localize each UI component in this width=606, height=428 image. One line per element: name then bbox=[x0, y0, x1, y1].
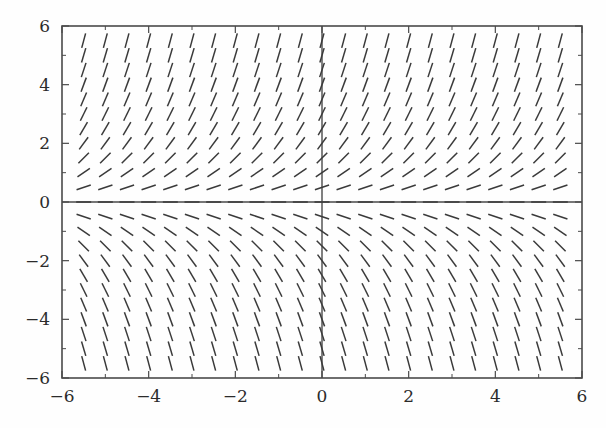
slope-segment bbox=[532, 185, 546, 190]
slope-segment bbox=[406, 312, 411, 326]
slope-segment bbox=[490, 153, 501, 164]
slope-segment bbox=[187, 153, 198, 164]
slope-segment bbox=[447, 153, 458, 164]
slope-segment bbox=[492, 122, 500, 135]
slope-segment bbox=[165, 153, 176, 164]
slope-segment bbox=[168, 341, 172, 355]
slope-segment bbox=[103, 78, 108, 92]
slope-segment bbox=[298, 327, 303, 341]
slope-segment bbox=[274, 137, 283, 149]
slope-segment bbox=[469, 255, 478, 267]
slope-segment bbox=[424, 227, 436, 235]
slope-segment bbox=[536, 63, 541, 77]
slope-segment bbox=[211, 298, 217, 312]
slope-segment bbox=[189, 298, 195, 312]
slope-segment bbox=[277, 48, 281, 62]
slope-segment bbox=[472, 341, 476, 355]
slope-segment bbox=[363, 327, 368, 341]
slope-segment bbox=[167, 269, 175, 282]
slope-segment bbox=[77, 185, 91, 190]
slope-segment bbox=[555, 153, 566, 164]
slope-segment bbox=[558, 327, 563, 341]
slope-segment bbox=[536, 92, 542, 106]
slope-segment bbox=[253, 122, 261, 135]
slope-segment bbox=[144, 137, 153, 149]
slope-segment bbox=[514, 298, 520, 312]
slope-segment bbox=[190, 327, 195, 341]
slope-segment bbox=[80, 283, 87, 296]
slope-segment bbox=[232, 107, 239, 120]
slope-segment bbox=[537, 356, 541, 370]
slope-segment bbox=[427, 283, 434, 296]
slope-segment bbox=[362, 298, 368, 312]
slope-segment bbox=[470, 269, 478, 282]
slope-segment bbox=[82, 341, 86, 355]
slope-segment bbox=[406, 78, 411, 92]
slope-segment bbox=[102, 269, 110, 282]
slope-segment bbox=[167, 107, 174, 120]
slope-segment bbox=[77, 214, 91, 219]
slope-segment bbox=[450, 33, 454, 47]
slope-segment bbox=[385, 63, 390, 77]
slope-segment bbox=[298, 63, 303, 77]
y-tick-label: 0 bbox=[39, 192, 50, 212]
slope-segment bbox=[363, 48, 367, 62]
slope-segment bbox=[513, 255, 522, 267]
slope-segment bbox=[124, 283, 131, 296]
slope-segment bbox=[146, 78, 151, 92]
slope-segment bbox=[79, 137, 88, 149]
slope-segment bbox=[426, 255, 435, 267]
slope-segment bbox=[513, 269, 521, 282]
slope-segment bbox=[298, 341, 302, 355]
slope-segment bbox=[467, 168, 479, 176]
slope-segment bbox=[341, 92, 347, 106]
slope-segment bbox=[208, 241, 219, 252]
slope-segment bbox=[423, 214, 437, 219]
slope-segment bbox=[122, 241, 133, 252]
slope-segment bbox=[450, 356, 454, 370]
x-tick-label: 2 bbox=[403, 386, 414, 406]
slope-segment bbox=[358, 185, 372, 190]
slope-segment bbox=[168, 48, 172, 62]
slope-segment bbox=[125, 327, 130, 341]
slope-segment bbox=[103, 63, 108, 77]
slope-segment bbox=[445, 185, 459, 190]
slope-segment bbox=[167, 122, 175, 135]
slope-segment bbox=[145, 283, 152, 296]
slope-segment bbox=[407, 341, 411, 355]
slope-segment bbox=[103, 356, 107, 370]
slope-segment bbox=[297, 283, 304, 296]
slope-segment bbox=[425, 241, 436, 252]
slope-segment bbox=[385, 356, 389, 370]
slope-segment bbox=[233, 312, 238, 326]
slope-segment bbox=[493, 341, 497, 355]
slope-segment bbox=[186, 227, 198, 235]
slope-segment bbox=[493, 63, 498, 77]
slope-segment bbox=[125, 356, 129, 370]
slope-field-group bbox=[76, 33, 568, 370]
slope-segment bbox=[448, 122, 456, 135]
slope-segment bbox=[103, 341, 107, 355]
slope-segment bbox=[535, 283, 542, 296]
slope-segment bbox=[142, 185, 156, 190]
slope-segment bbox=[428, 356, 432, 370]
slope-segment bbox=[407, 48, 411, 62]
slope-segment bbox=[254, 92, 260, 106]
slope-segment bbox=[470, 122, 478, 135]
slope-segment bbox=[493, 312, 498, 326]
slope-segment bbox=[293, 185, 307, 190]
slope-segment bbox=[125, 33, 129, 47]
slope-segment bbox=[512, 153, 523, 164]
slope-segment bbox=[165, 241, 176, 252]
slope-segment bbox=[189, 78, 194, 92]
slope-segment bbox=[488, 214, 502, 219]
slope-segment bbox=[146, 327, 151, 341]
slope-segment bbox=[448, 137, 457, 149]
slope-segment bbox=[103, 327, 108, 341]
slope-segment bbox=[423, 185, 437, 190]
slope-segment bbox=[428, 63, 433, 77]
slope-segment bbox=[103, 48, 107, 62]
slope-segment bbox=[123, 137, 132, 149]
slope-segment bbox=[143, 153, 154, 164]
slope-segment bbox=[450, 48, 454, 62]
